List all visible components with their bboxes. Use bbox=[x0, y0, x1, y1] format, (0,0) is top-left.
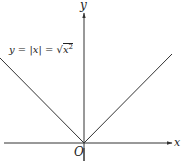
right-branch-line bbox=[84, 54, 172, 143]
function-equation: y = |x| = √x2 bbox=[9, 43, 73, 55]
origin-label: O bbox=[74, 145, 84, 159]
eq-equals-1: = bbox=[15, 44, 30, 55]
eq-abs: |x| bbox=[29, 44, 41, 55]
eq-equals-2: = bbox=[42, 44, 57, 55]
eq-exponent: 2 bbox=[69, 43, 73, 51]
graph-canvas bbox=[0, 0, 183, 161]
x-axis-label: x bbox=[174, 136, 180, 149]
left-branch-line bbox=[0, 58, 84, 143]
y-axis-label: y bbox=[80, 0, 87, 12]
